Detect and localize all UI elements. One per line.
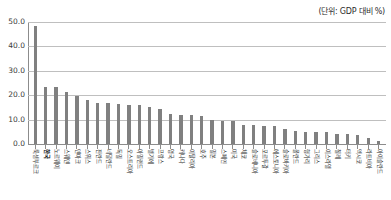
x-label-slot: 호주 xyxy=(197,149,207,199)
bar xyxy=(179,115,182,144)
x-axis-tick-label: 스위스 xyxy=(85,149,90,164)
bar xyxy=(242,125,245,144)
bar-slot xyxy=(155,22,165,144)
bar xyxy=(304,132,307,144)
bar-slot xyxy=(113,22,123,144)
x-label-slot: 슬로바키아 xyxy=(280,149,290,199)
bar xyxy=(54,87,57,144)
bar xyxy=(346,134,349,144)
x-label-slot: 벨기에 xyxy=(144,149,154,199)
bar-slot xyxy=(238,22,248,144)
bar xyxy=(262,126,265,144)
y-axis-tick-label: 10.0 xyxy=(8,116,25,124)
x-axis-tick-label: 독일 xyxy=(116,149,121,159)
bar xyxy=(34,26,37,144)
x-axis-tick-label: 슬로바키아 xyxy=(283,149,288,174)
bar xyxy=(65,92,68,144)
x-label-slot: 네덜란드 xyxy=(103,149,113,199)
plot-area xyxy=(28,22,386,144)
x-axis-tick-label: 네덜란드 xyxy=(106,149,111,169)
bar xyxy=(75,96,78,144)
x-label-slot: 멕시코 xyxy=(353,149,363,199)
bar-slot xyxy=(134,22,144,144)
bar xyxy=(117,104,120,144)
x-axis-tick-label: 룩셈부르크 xyxy=(33,149,38,174)
x-label-slot: 그리스 xyxy=(311,149,321,199)
x-axis-tick-label: 영국 xyxy=(168,149,173,159)
x-axis-tick-label: 체코 xyxy=(241,149,246,159)
x-axis-tick-label: 헝가리 xyxy=(304,149,309,164)
bar xyxy=(190,115,193,144)
x-label-slot: 체코 xyxy=(238,149,248,199)
x-axis-tick-label: 호주 xyxy=(199,149,204,159)
x-label-slot: 덴마크 xyxy=(72,149,82,199)
x-axis-tick-label: 폴란드 xyxy=(293,149,298,164)
bar xyxy=(158,109,161,144)
bar-slot xyxy=(165,22,175,144)
bar xyxy=(200,116,203,144)
x-label-slot: 프랑스 xyxy=(155,149,165,199)
y-axis-tick-labels: 0.010.020.030.040.050.0 xyxy=(0,22,25,144)
bar xyxy=(210,120,213,144)
x-axis-tick-label: 스페인 xyxy=(220,149,225,164)
bar-slot xyxy=(290,22,300,144)
bar xyxy=(367,138,370,144)
bar xyxy=(44,87,47,144)
bar-slot xyxy=(186,22,196,144)
x-label-slot: 한국 xyxy=(40,149,50,199)
bar xyxy=(283,129,286,144)
bar-slot xyxy=(124,22,134,144)
bar-slot xyxy=(228,22,238,144)
bar-slot xyxy=(363,22,373,144)
bar-slot xyxy=(40,22,50,144)
x-axis-tick-label: 덴마크 xyxy=(75,149,80,164)
x-label-slot: 영국 xyxy=(165,149,175,199)
x-axis-tick-label: 칠레 xyxy=(335,149,340,159)
bar-slot xyxy=(103,22,113,144)
x-axis-tick-label: 이스라엘 xyxy=(324,149,329,169)
x-label-slot: 슬로베니아 xyxy=(249,149,259,199)
x-axis-tick-label: 에스토니아 xyxy=(272,149,277,174)
bar-slot xyxy=(61,22,71,144)
x-label-slot: 룩셈부르크 xyxy=(30,149,40,199)
x-axis-tick-label: 슬로베니아 xyxy=(252,149,257,174)
bar-slot xyxy=(269,22,279,144)
bar xyxy=(325,132,328,144)
bar-slot xyxy=(144,22,154,144)
y-axis-tick-label: 0.0 xyxy=(13,140,25,148)
x-label-slot: 폴란드 xyxy=(290,149,300,199)
bar-slot xyxy=(217,22,227,144)
y-axis-tick-label: 50.0 xyxy=(8,18,25,26)
bar-slot xyxy=(342,22,352,144)
x-label-slot: 스페인 xyxy=(217,149,227,199)
bar-slot xyxy=(311,22,321,144)
x-label-slot: 에스토니아 xyxy=(269,149,279,199)
y-axis-tick-label: 20.0 xyxy=(8,91,25,99)
bar xyxy=(314,132,317,144)
bar xyxy=(335,134,338,144)
x-label-slot: 독일 xyxy=(113,149,123,199)
x-label-slot: 터키 xyxy=(342,149,352,199)
x-axis-tick-label: 노르웨이 xyxy=(54,149,59,169)
x-label-slot: 헝가리 xyxy=(301,149,311,199)
bar-chart: (단위: GDP 대비 %) 0.010.020.030.040.050.0 룩… xyxy=(0,0,391,200)
x-label-slot: 아이슬란드 xyxy=(373,149,383,199)
bar xyxy=(127,105,130,144)
bar xyxy=(86,100,89,144)
x-label-slot: 칠레 xyxy=(332,149,342,199)
bar-slot xyxy=(92,22,102,144)
x-axis-tick-label: 일본 xyxy=(210,149,215,159)
x-label-slot: 미국 xyxy=(228,149,238,199)
x-axis-tick-label: 캐나다 xyxy=(179,149,184,164)
x-label-slot: 포르투갈 xyxy=(259,149,269,199)
x-axis-tick-label: 아일랜드 xyxy=(137,149,142,169)
bar-slot xyxy=(72,22,82,144)
x-label-slot: 라트비아 xyxy=(363,149,373,199)
x-label-slot: 스위스 xyxy=(82,149,92,199)
bar-slot xyxy=(51,22,61,144)
x-axis-tick-label: 그리스 xyxy=(314,149,319,164)
bar-slot xyxy=(176,22,186,144)
bar xyxy=(273,126,276,144)
x-axis-tick-label: 벨기에 xyxy=(147,149,152,164)
x-label-slot: 아일랜드 xyxy=(134,149,144,199)
